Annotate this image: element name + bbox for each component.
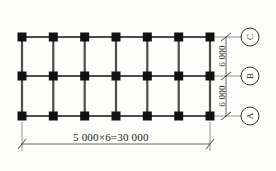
axis-bubble-label-c: C: [245, 28, 255, 46]
column-marker: [80, 33, 89, 42]
axis-bubble-label-b: B: [245, 67, 255, 85]
column-marker: [174, 33, 183, 42]
vertical-dimension-label-upper: 6 000: [217, 40, 227, 72]
column-marker: [143, 112, 152, 121]
column-marker: [143, 72, 152, 81]
column-marker: [112, 72, 121, 81]
column-marker: [49, 72, 58, 81]
drawing-canvas: 5 000×6=30 000 6 000 6 000 C B A: [0, 0, 276, 171]
column-marker: [174, 112, 183, 121]
column-marker: [143, 33, 152, 42]
horizontal-dimension-label: 5 000×6=30 000: [73, 131, 149, 143]
column-marker: [206, 33, 215, 42]
column-marker: [174, 72, 183, 81]
column-marker: [18, 72, 27, 81]
column-marker: [49, 33, 58, 42]
structural-grid-drawing: [0, 0, 276, 171]
column-marker: [49, 112, 58, 121]
column-marker: [18, 33, 27, 42]
axis-bubble-label-a: A: [245, 107, 255, 125]
vertical-dimension-label-lower: 6 000: [217, 80, 227, 112]
column-marker: [112, 33, 121, 42]
column-marker: [80, 112, 89, 121]
column-marker: [80, 72, 89, 81]
column-marker: [206, 112, 215, 121]
column-marker: [112, 112, 121, 121]
column-marker: [206, 72, 215, 81]
column-marker: [18, 112, 27, 121]
